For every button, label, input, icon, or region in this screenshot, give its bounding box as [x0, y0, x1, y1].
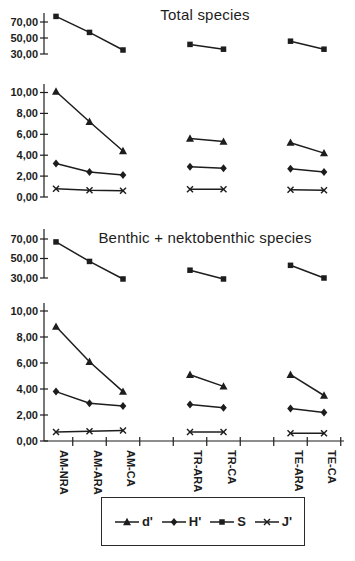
- marker-square-icon: [53, 239, 59, 245]
- marker-diamond-icon: [53, 388, 60, 396]
- figure-page: Total species Benthic + nektobenthic spe…: [0, 0, 355, 561]
- x-category-label: TE-ARA: [293, 450, 305, 492]
- legend-label: S: [237, 514, 246, 529]
- x-category-label: TR-CA: [226, 450, 238, 484]
- marker-square-icon: [321, 46, 327, 52]
- marker-square-icon: [288, 38, 294, 44]
- legend-label: H': [189, 514, 201, 529]
- y-axis-tick-label: 50,00: [10, 32, 38, 44]
- marker-diamond-icon: [220, 164, 227, 172]
- marker-triangle-icon: [186, 371, 194, 378]
- x-category-label: AM-NRA: [58, 450, 70, 495]
- x-category-label: TR-ARA: [192, 450, 204, 492]
- series-triangle: [52, 322, 328, 398]
- series-line: [190, 405, 224, 408]
- marker-diamond-icon: [287, 405, 294, 413]
- series-line: [190, 167, 224, 169]
- legend-box: d'H'SJ': [101, 497, 305, 546]
- marker-triangle-icon: [320, 391, 328, 398]
- y-axis-tick-label: 4,00: [17, 149, 38, 161]
- marker-triangle-icon: [52, 322, 60, 329]
- marker-diamond-icon: [187, 401, 194, 409]
- series-line: [291, 41, 325, 49]
- legend-label: d': [142, 514, 153, 529]
- marker-diamond-icon: [120, 171, 127, 179]
- series-line: [190, 44, 224, 49]
- y-axis-tick-label: 2,00: [17, 170, 38, 182]
- marker-diamond-icon: [321, 168, 328, 176]
- marker-square-icon: [288, 263, 294, 269]
- legend-item-triangle: d': [114, 514, 153, 529]
- legend-key-x: [254, 516, 280, 528]
- x-category-label: AM-ARA: [92, 450, 104, 495]
- marker-triangle-icon: [52, 87, 60, 94]
- series-x: [53, 428, 327, 437]
- panel-2: 70,0050,0030,0010,008,006,004,002,000,00…: [10, 229, 344, 495]
- series-line: [291, 190, 325, 191]
- marker-square-icon: [219, 519, 225, 525]
- y-axis-tick-label: 70,00: [10, 233, 38, 245]
- series-line: [291, 375, 325, 396]
- y-axis-tick-label: 6,00: [17, 357, 38, 369]
- panel-1: 70,0050,0030,0010,008,006,004,002,000,00: [10, 13, 328, 203]
- legend-key-square: [209, 516, 235, 528]
- series-square: [53, 239, 327, 282]
- marker-triangle-icon: [287, 371, 295, 378]
- series-line: [190, 138, 224, 141]
- y-axis-tick-label: 30,00: [10, 48, 38, 60]
- marker-square-icon: [87, 259, 93, 265]
- y-axis-tick-label: 0,00: [17, 191, 38, 203]
- series-line: [291, 409, 325, 413]
- marker-diamond-icon: [120, 402, 127, 410]
- series-line: [291, 143, 325, 153]
- legend-label: J': [282, 514, 292, 529]
- series-diamond: [53, 160, 328, 179]
- marker-square-icon: [221, 276, 227, 282]
- marker-square-icon: [53, 14, 59, 20]
- legend-item-x: J': [254, 514, 292, 529]
- marker-square-icon: [87, 30, 93, 36]
- marker-square-icon: [321, 275, 327, 281]
- marker-diamond-icon: [171, 518, 178, 526]
- series-x: [53, 186, 327, 194]
- y-axis-tick-label: 70,00: [10, 16, 38, 28]
- series-square: [53, 14, 327, 53]
- series-line: [190, 375, 224, 387]
- marker-square-icon: [187, 267, 193, 273]
- series-line: [190, 270, 224, 279]
- chart-canvas: 70,0050,0030,0010,008,006,004,002,000,00…: [0, 0, 355, 561]
- marker-square-icon: [187, 42, 193, 48]
- x-category-label: AM-CA: [125, 450, 137, 487]
- series-diamond: [53, 388, 328, 417]
- y-axis-tick-label: 50,00: [10, 252, 38, 264]
- marker-diamond-icon: [287, 165, 294, 173]
- marker-triangle-icon: [186, 134, 194, 141]
- y-axis-tick-label: 6,00: [17, 128, 38, 140]
- marker-diamond-icon: [220, 404, 227, 412]
- legend-key-diamond: [161, 516, 187, 528]
- marker-square-icon: [120, 47, 126, 53]
- marker-square-icon: [221, 46, 227, 52]
- y-axis-tick-label: 0,00: [17, 435, 38, 447]
- marker-square-icon: [120, 276, 126, 282]
- y-axis-tick-label: 4,00: [17, 383, 38, 395]
- legend-item-diamond: H': [161, 514, 201, 529]
- legend-key-triangle: [114, 516, 140, 528]
- marker-diamond-icon: [321, 408, 328, 416]
- marker-diamond-icon: [187, 163, 194, 171]
- series-line: [291, 265, 325, 278]
- series-line: [291, 169, 325, 172]
- legend-item-square: S: [209, 514, 246, 529]
- marker-triangle-icon: [287, 138, 295, 145]
- y-axis-tick-label: 8,00: [17, 331, 38, 343]
- y-axis-tick-label: 2,00: [17, 409, 38, 421]
- x-category-label: TE-CA: [326, 450, 338, 484]
- marker-diamond-icon: [86, 399, 93, 407]
- y-axis-tick-label: 8,00: [17, 107, 38, 119]
- series-triangle: [52, 87, 328, 156]
- y-axis-tick-label: 30,00: [10, 272, 38, 284]
- y-axis-tick-label: 10,00: [10, 305, 38, 317]
- y-axis-tick-label: 10,00: [10, 86, 38, 98]
- marker-diamond-icon: [53, 160, 60, 168]
- marker-diamond-icon: [86, 168, 93, 176]
